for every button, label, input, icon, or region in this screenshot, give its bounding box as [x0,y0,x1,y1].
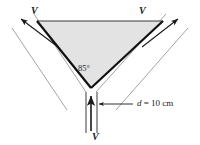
diagram-canvas [0,0,200,145]
diameter-value: 10 [151,98,160,108]
diameter-label: d = 10 cm [137,99,173,108]
outlet-velocity-label-right: V [139,6,146,16]
wedge-flow-diagram: V V 85° d = 10 cm V [0,0,200,145]
inlet-velocity-label: V [92,132,99,142]
diameter-units: cm [162,98,173,108]
outlet-velocity-label-left: V [31,6,38,16]
apex-angle-label: 85° [78,64,90,73]
diameter-symbol: d [137,98,142,108]
